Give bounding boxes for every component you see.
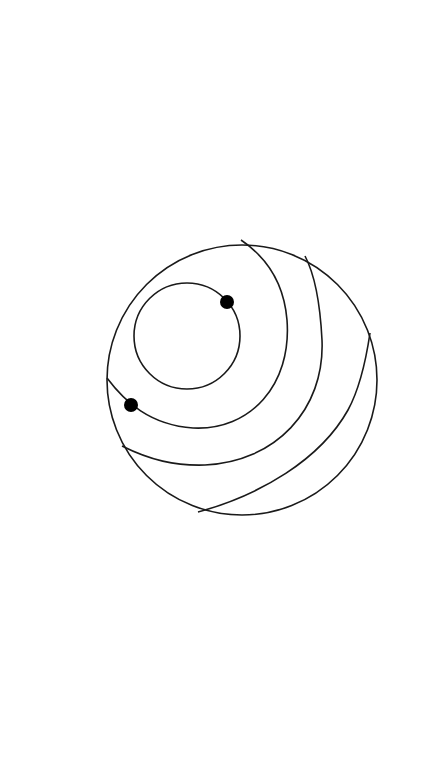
dot-band-arc (124, 398, 138, 412)
band-arc-2 (122, 256, 322, 465)
outer-circle (107, 245, 377, 515)
sphere-diagram (0, 0, 432, 768)
dot-inner-circle (220, 295, 234, 309)
